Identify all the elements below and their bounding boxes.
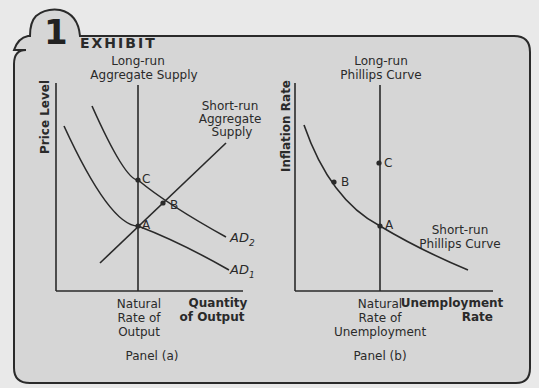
srpc-label-1: Short-run xyxy=(432,223,489,237)
sras-label-3: Supply xyxy=(212,125,253,139)
exhibit-number: 1 xyxy=(44,12,68,52)
exhibit-label: EXHIBIT xyxy=(80,35,157,51)
x-tick-b-1: Natural xyxy=(358,297,402,311)
x-axis-label-a-2: of Output xyxy=(180,310,245,324)
point-a-label-a: A xyxy=(142,218,151,232)
exhibit-figure: 1 EXHIBIT A B C Long-run Aggregate Suppl… xyxy=(0,0,539,388)
x-tick-b-3: Unemployment xyxy=(334,325,427,339)
y-axis-label-b: Inflation Rate xyxy=(279,80,293,172)
srpc-label-2: Phillips Curve xyxy=(419,237,500,251)
lrpc-label-2: Phillips Curve xyxy=(340,68,421,82)
x-axis-label-a-1: Quantity xyxy=(189,296,248,310)
panel-b-label: Panel (b) xyxy=(353,349,406,363)
y-axis-label-a: Price Level xyxy=(38,80,52,154)
x-tick-b-2: Rate of xyxy=(359,311,403,325)
panel-a-label: Panel (a) xyxy=(126,349,179,363)
lras-label-1: Long-run xyxy=(111,54,165,68)
x-tick-a-1: Natural xyxy=(117,297,161,311)
point-b-label-b: B xyxy=(341,175,349,189)
x-tick-a-2: Rate of xyxy=(118,311,162,325)
point-a-label-b: A xyxy=(385,218,394,232)
x-axis-label-b-2: Rate xyxy=(462,310,493,324)
point-c-label-b: C xyxy=(384,156,392,170)
sras-label-1: Short-run xyxy=(202,99,259,113)
lrpc-label-1: Long-run xyxy=(354,54,408,68)
x-axis-label-b-1: Unemployment xyxy=(401,296,504,310)
lras-label-2: Aggregate Supply xyxy=(90,68,197,82)
point-b-label-a: B xyxy=(170,198,178,212)
x-tick-a-3: Output xyxy=(118,325,160,339)
exhibit-frame xyxy=(14,10,530,383)
point-c-label-a: C xyxy=(142,172,150,186)
sras-label-2: Aggregate xyxy=(199,112,262,126)
